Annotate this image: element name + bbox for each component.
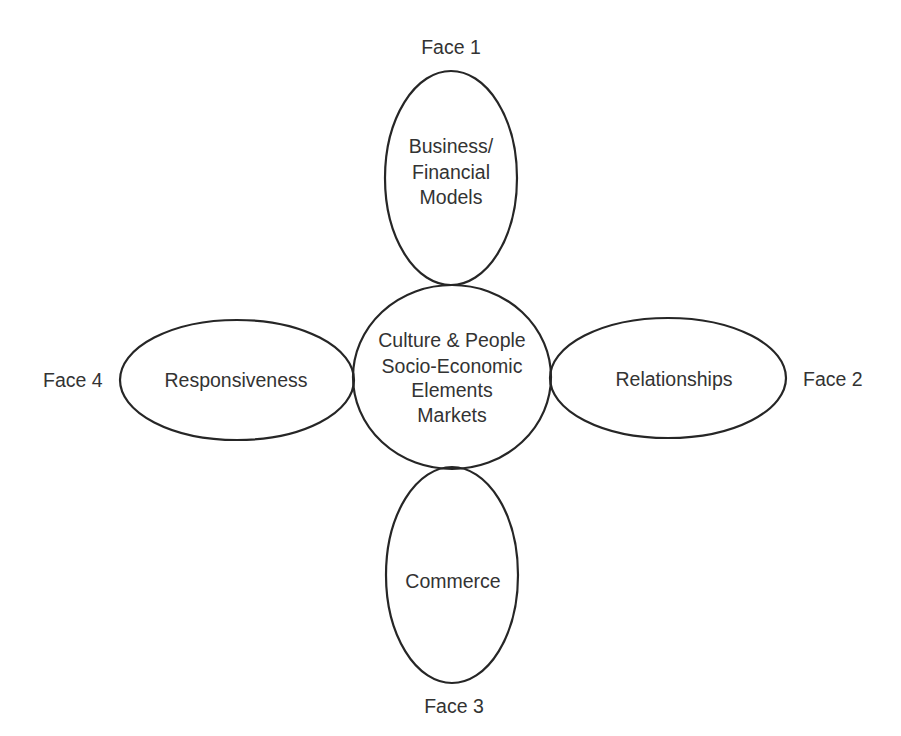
face-2-label: Face 2 [803,368,863,390]
petal-left: Responsiveness Face 4 [43,320,354,440]
petal-top-line-3: Models [420,186,483,208]
center-line-1: Culture & People [378,329,525,351]
petal-bottom: Commerce Face 3 [386,467,518,717]
center-line-2: Socio-Economic [382,355,523,377]
petal-right-line-1: Relationships [615,368,732,390]
center-line-4: Markets [417,404,487,426]
center-line-3: Elements [411,379,493,401]
petal-bottom-line-1: Commerce [405,570,500,592]
center-node: Culture & People Socio-Economic Elements… [353,285,551,469]
petal-top-line-2: Financial [412,161,490,183]
face-3-label: Face 3 [424,695,484,717]
petal-right: Relationships Face 2 [550,318,863,438]
petal-top: Business/ Financial Models Face 1 [385,36,517,285]
petal-left-line-1: Responsiveness [164,369,307,391]
face-1-label: Face 1 [421,36,481,58]
four-faces-diagram: Business/ Financial Models Face 1 Relati… [0,0,901,736]
face-4-label: Face 4 [43,369,103,391]
center-circle [353,285,551,469]
petal-top-line-1: Business/ [409,135,494,157]
